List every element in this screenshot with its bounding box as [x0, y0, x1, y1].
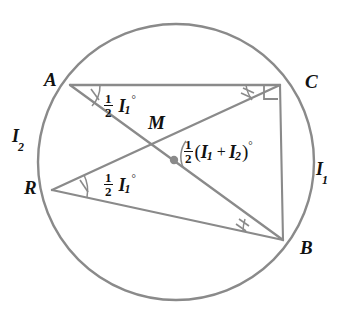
angle-M-subscript-2: 2 — [235, 150, 241, 162]
angle-A-degree-symbol: ° — [132, 94, 136, 105]
fraction-denominator: 2 — [104, 105, 113, 119]
angle-expression-M: 1 2 ( I 1 + I 2 ) ° — [184, 138, 253, 166]
angle-tick-C-2 — [241, 93, 252, 98]
vertex-label-M: M — [148, 113, 165, 132]
angle-tick-A — [91, 89, 99, 100]
angle-A-subscript: 1 — [125, 104, 131, 116]
vertex-label-R: R — [24, 178, 37, 197]
fraction-one-half-R: 1 2 — [104, 171, 113, 199]
geometry-canvas — [0, 0, 344, 315]
angle-R-degree-symbol: ° — [132, 173, 136, 184]
arc-label-right: I1 — [316, 160, 329, 182]
angle-expression-R: 1 2 I 1 ° — [104, 171, 136, 199]
fraction-numerator: 1 — [184, 138, 193, 151]
vertex-label-A: A — [44, 70, 57, 89]
angle-expression-A: 1 2 I 1 ° — [104, 92, 136, 120]
fraction-denominator: 2 — [104, 184, 113, 198]
angle-R-subscript: 1 — [125, 183, 131, 195]
plus-operator: + — [214, 144, 229, 160]
angle-M-degree-symbol: ° — [248, 140, 252, 151]
arc-label-left-subscript: 2 — [18, 140, 24, 154]
fraction-numerator: 1 — [104, 92, 113, 105]
arc-label-right-subscript: 1 — [322, 173, 328, 187]
intersection-point-dot — [170, 156, 178, 164]
vertex-label-C: C — [305, 72, 318, 91]
angle-M-subscript-1: 1 — [207, 150, 213, 162]
fraction-one-half-M: 1 2 — [184, 138, 193, 166]
fraction-one-half-A: 1 2 — [104, 92, 113, 120]
fraction-denominator: 2 — [184, 151, 193, 165]
arc-label-left: I2 — [12, 127, 25, 149]
fraction-numerator: 1 — [104, 171, 113, 184]
vertex-label-B: B — [300, 238, 313, 257]
geometry-figure: A C R B M I1 I2 1 2 I 1 ° 1 2 I 1 ° 1 2 … — [0, 0, 344, 315]
chord-CB — [280, 85, 283, 240]
